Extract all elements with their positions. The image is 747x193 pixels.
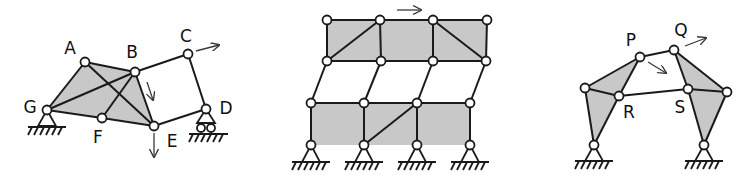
node-label-d: D [219,100,232,117]
velocity-arrow-b [147,82,153,100]
node-label-g: G [23,99,36,116]
node-label-a: A [64,40,76,57]
node-label-p: P [626,32,636,49]
mechanism-1 [28,45,228,157]
node-label-q: Q [674,22,687,39]
velocity-arrow-q [685,38,706,46]
node-label-c: C [180,28,192,45]
node-label-b: B [126,44,138,61]
velocity-arrow-c [196,45,219,51]
node-label-e: E [167,133,178,150]
pin-supports [292,145,489,170]
node-label-r: R [623,104,635,121]
shaded-links [585,50,727,145]
node-label-f: F [93,129,103,146]
shaded-panels [311,20,487,145]
mechanism-3 [575,38,732,169]
velocity-arrow-p [648,62,666,73]
node-label-s: S [675,99,686,116]
frame-2 [292,10,492,170]
